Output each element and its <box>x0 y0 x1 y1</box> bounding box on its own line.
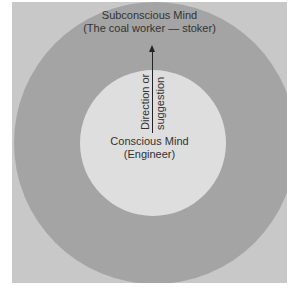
conscious-subtitle: (Engineer) <box>12 148 287 161</box>
direction-arrow <box>152 49 153 133</box>
arrow-label-right: suggestion <box>154 77 166 130</box>
arrow-label-left: Direction or <box>139 74 151 130</box>
subconscious-title: Subconscious Mind <box>12 9 287 22</box>
conscious-label: Conscious Mind (Engineer) <box>12 135 287 161</box>
diagram-panel: Subconscious Mind (The coal worker — sto… <box>12 2 287 283</box>
conscious-title: Conscious Mind <box>12 135 287 148</box>
subconscious-subtitle: (The coal worker — stoker) <box>12 22 287 35</box>
subconscious-label: Subconscious Mind (The coal worker — sto… <box>12 9 287 35</box>
